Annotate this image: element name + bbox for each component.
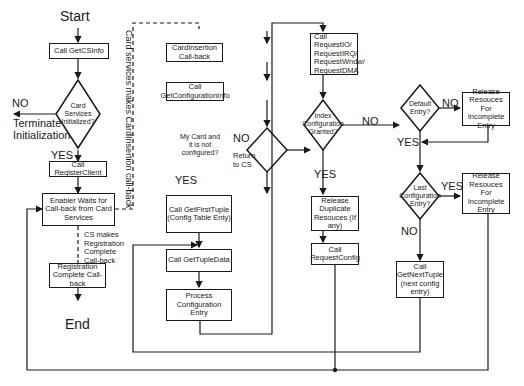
terminate-label: Terminate Initialization [13, 117, 73, 141]
end-terminal: End [65, 316, 90, 332]
get-cs-info-box: Call GetCSInfo [49, 43, 109, 59]
last-entry-decision: Last Configuration Entry? [402, 183, 438, 209]
my-card-no-label: NO [233, 132, 250, 144]
cs-yes-label: YES [51, 149, 73, 161]
registration-complete-box: Registration Complete Call-back [49, 263, 106, 288]
release-incomplete-box-1: Release Resouces For Incomplete Entry [462, 92, 510, 126]
cardinsertion-callback-note: Card services makes CardInsertion call-b… [124, 30, 134, 240]
cs-no-label: NO [12, 97, 29, 109]
process-config-box: Process Configuration Entry [166, 289, 232, 321]
cs-registration-note: CS makes Registration Complete Call-back [84, 231, 124, 265]
get-config-info-box: Call GetConfigurationInfo [166, 82, 224, 101]
start-terminal: Start [60, 8, 90, 24]
last-yes-label: YES [441, 180, 463, 192]
default-yes-label: YES [397, 136, 419, 148]
release-incomplete-box-2: Release Resouces For Incomplete Entry [462, 173, 510, 214]
request-resources-box: Call RequestIO/ RequestIRQ/ RequestWndw/… [310, 33, 358, 75]
release-duplicate-box: Release Duplicate Resouces (If any) [311, 196, 359, 231]
enabler-waits-box: Enabler Waits for Call-back from Card Se… [42, 193, 115, 226]
register-client-box: Call RegisterClient [49, 161, 107, 177]
get-first-tuple-box: Call GetFirstTuple (Config Table Enty) [166, 195, 232, 233]
index-yes-label: YES [314, 168, 336, 180]
index-granted-decision: Index Configuration Granted? [305, 110, 341, 138]
return-to-cs-label: Return to CS [233, 152, 257, 169]
index-no-label: NO [362, 115, 379, 127]
request-config-box: Call RequestConfig [311, 243, 359, 265]
get-tuple-data-box: Call GetTupleData [166, 249, 232, 272]
default-entry-decision: Default Entry? [405, 97, 435, 119]
my-card-decision: My Card and it is not configured? [178, 132, 222, 158]
request-resources-label: Call RequestIO/ RequestIRQ/ RequestWndw/… [314, 33, 365, 76]
last-no-label: NO [401, 225, 418, 237]
default-no-label: NO [442, 97, 459, 109]
card-insertion-box: CardInsertion Call-back [166, 43, 223, 62]
get-next-tuple-box: Call GetNextTuple (next config entry) [396, 261, 444, 298]
my-card-yes-label: YES [175, 174, 197, 186]
